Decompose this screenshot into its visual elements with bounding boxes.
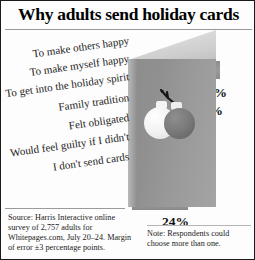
source-text: Source: Harris Interactive online survey… <box>8 213 136 253</box>
bar-value-6: 24% <box>162 214 189 230</box>
card-flap-icon <box>128 30 216 60</box>
title-divider <box>5 29 252 30</box>
page-title: Why adults send holiday cards <box>1 4 255 25</box>
infographic-frame: Why adults send holiday cards 54% 41% 36… <box>0 0 255 260</box>
note-text: Note: Respondents could choose more than… <box>147 229 251 249</box>
note-divider <box>147 225 251 226</box>
category-label-list: To make others happy To make myself happ… <box>1 34 141 209</box>
ornament-dark-icon <box>164 108 195 139</box>
source-divider <box>5 208 125 209</box>
greeting-card-illustration <box>128 59 216 207</box>
